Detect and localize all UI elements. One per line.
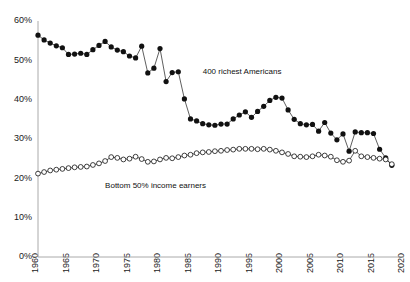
data-point bbox=[139, 44, 144, 49]
data-point bbox=[170, 70, 175, 75]
x-tick-label: 2010 bbox=[335, 253, 345, 273]
data-point bbox=[194, 118, 199, 123]
data-point bbox=[389, 162, 394, 167]
data-point bbox=[84, 52, 89, 57]
data-point bbox=[267, 147, 272, 152]
data-point bbox=[347, 158, 352, 163]
data-point bbox=[188, 116, 193, 121]
data-point bbox=[365, 130, 370, 135]
data-point bbox=[54, 167, 59, 172]
x-axis-tick-labels: 1960196519701975198019851990199520002005… bbox=[30, 253, 406, 273]
data-point bbox=[322, 120, 327, 125]
data-point bbox=[72, 51, 77, 56]
data-point bbox=[261, 146, 266, 151]
data-point bbox=[194, 151, 199, 156]
data-point bbox=[78, 51, 83, 56]
data-point bbox=[286, 107, 291, 112]
data-point bbox=[103, 39, 108, 44]
data-point bbox=[54, 43, 59, 48]
data-point bbox=[200, 150, 205, 155]
data-point bbox=[219, 148, 224, 153]
data-point bbox=[328, 131, 333, 136]
data-point bbox=[90, 47, 95, 52]
data-point bbox=[133, 154, 138, 159]
data-point bbox=[139, 157, 144, 162]
data-point bbox=[127, 53, 132, 58]
data-point bbox=[377, 147, 382, 152]
data-point bbox=[72, 165, 77, 170]
data-point bbox=[121, 49, 126, 54]
data-point bbox=[371, 155, 376, 160]
data-point bbox=[359, 130, 364, 135]
x-tick-label: 1980 bbox=[152, 253, 162, 273]
data-point bbox=[109, 155, 114, 160]
series-annotations: 400 richest AmericansBottom 50% income e… bbox=[105, 67, 281, 190]
data-point bbox=[310, 122, 315, 127]
data-point bbox=[328, 154, 333, 159]
data-point bbox=[231, 116, 236, 121]
data-point bbox=[164, 79, 169, 84]
data-point bbox=[334, 137, 339, 142]
data-point bbox=[237, 146, 242, 151]
y-tick-label: 40% bbox=[14, 94, 32, 104]
data-point bbox=[133, 55, 138, 60]
y-axis-tick-labels: 0%10%20%30%40%50%60% bbox=[14, 15, 32, 261]
series-line-0 bbox=[38, 35, 392, 165]
data-point bbox=[60, 45, 65, 50]
y-tick-label: 10% bbox=[14, 212, 32, 222]
series-annotation-0: 400 richest Americans bbox=[203, 67, 282, 76]
x-tick-label: 2005 bbox=[305, 253, 315, 273]
data-point bbox=[176, 155, 181, 160]
data-point bbox=[145, 159, 150, 164]
data-point bbox=[255, 109, 260, 114]
x-tick-label: 1975 bbox=[122, 253, 132, 273]
data-point bbox=[225, 121, 230, 126]
data-point bbox=[340, 131, 345, 136]
data-point bbox=[42, 170, 47, 175]
data-point bbox=[359, 154, 364, 159]
data-point bbox=[316, 129, 321, 134]
data-point bbox=[145, 70, 150, 75]
data-point bbox=[206, 122, 211, 127]
data-point bbox=[151, 66, 156, 71]
data-point bbox=[109, 44, 114, 49]
data-point bbox=[286, 152, 291, 157]
data-point bbox=[310, 154, 315, 159]
x-tick-label: 1965 bbox=[61, 253, 71, 273]
data-point bbox=[218, 121, 223, 126]
data-point bbox=[35, 33, 40, 38]
data-point bbox=[121, 157, 126, 162]
data-point bbox=[170, 156, 175, 161]
y-tick-label: 50% bbox=[14, 55, 32, 65]
chart-container: 0%10%20%30%40%50%60% 1960196519701975198… bbox=[0, 0, 410, 282]
x-tick-label: 1970 bbox=[91, 253, 101, 273]
data-point bbox=[243, 146, 248, 151]
data-point bbox=[213, 149, 218, 154]
data-point bbox=[292, 154, 297, 159]
data-point bbox=[383, 157, 388, 162]
data-point bbox=[91, 163, 96, 168]
y-tick-label: 30% bbox=[14, 133, 32, 143]
data-point bbox=[304, 155, 309, 160]
axis-lines bbox=[38, 21, 404, 257]
data-point bbox=[176, 69, 181, 74]
data-point bbox=[164, 155, 169, 160]
data-point bbox=[212, 123, 217, 128]
data-point bbox=[298, 121, 303, 126]
x-tick-label: 2000 bbox=[274, 253, 284, 273]
x-tick-label: 1985 bbox=[183, 253, 193, 273]
data-point bbox=[97, 161, 102, 166]
data-point bbox=[365, 155, 370, 160]
data-point bbox=[115, 48, 120, 53]
income-share-line-chart: 0%10%20%30%40%50%60% 1960196519701975198… bbox=[0, 0, 410, 282]
y-tick-label: 20% bbox=[14, 173, 32, 183]
data-point bbox=[127, 156, 132, 161]
data-point bbox=[249, 146, 254, 151]
data-point bbox=[280, 150, 285, 155]
series-markers bbox=[35, 33, 394, 176]
data-point bbox=[322, 153, 327, 158]
data-point bbox=[316, 152, 321, 157]
data-point bbox=[335, 158, 340, 163]
data-point bbox=[298, 154, 303, 159]
data-point bbox=[292, 117, 297, 122]
